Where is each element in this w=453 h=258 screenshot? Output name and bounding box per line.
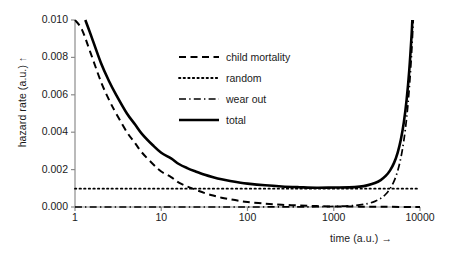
- x-tick-label: 10000: [390, 211, 450, 223]
- y-axis-title: hazard rate (a.u.) ↑: [16, 12, 28, 192]
- y-tick-label: 0.006: [28, 88, 68, 100]
- legend-line-solid-icon: [178, 113, 220, 127]
- legend-item[interactable]: random: [178, 67, 328, 88]
- x-tick-label: 10: [131, 211, 191, 223]
- chart-figure: 0.0000.0020.0040.0060.0080.010 110100100…: [0, 0, 453, 258]
- legend-line-dotted-icon: [178, 71, 220, 85]
- chart-legend: child mortalityrandomwear outtotal: [178, 46, 328, 130]
- legend-label: wear out: [220, 93, 266, 105]
- x-axis-title: time (a.u.) →: [330, 232, 392, 244]
- legend-item[interactable]: child mortality: [178, 46, 328, 67]
- legend-label: child mortality: [220, 51, 290, 63]
- legend-label: total: [220, 114, 246, 126]
- legend-label: random: [220, 72, 262, 84]
- x-tick-label: 1: [45, 211, 105, 223]
- legend-line-dashdot-icon: [178, 92, 220, 106]
- x-tick-label: 100: [218, 211, 278, 223]
- legend-item[interactable]: wear out: [178, 88, 328, 109]
- y-tick-label: 0.008: [28, 50, 68, 62]
- y-tick-label: 0.004: [28, 125, 68, 137]
- x-tick-label: 1000: [304, 211, 364, 223]
- y-tick-label: 0.002: [28, 163, 68, 175]
- legend-item[interactable]: total: [178, 109, 328, 130]
- y-tick-label: 0.010: [28, 13, 68, 25]
- legend-line-dashed-icon: [178, 50, 220, 64]
- x-axis-tick-labels: 110100100010000: [0, 211, 453, 229]
